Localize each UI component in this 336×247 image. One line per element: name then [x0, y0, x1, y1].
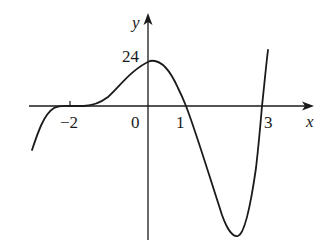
origin-label: 0	[131, 114, 140, 131]
x-tick-label-1: 1	[176, 114, 185, 131]
y-tick-label-24: 24	[122, 48, 139, 65]
function-graph	[0, 0, 336, 247]
x-tick-label-neg2: −2	[60, 114, 78, 131]
y-axis-label: y	[132, 14, 140, 31]
x-axis-label: x	[306, 113, 314, 130]
x-tick-label-3: 3	[264, 114, 273, 131]
function-curve	[32, 50, 268, 236]
